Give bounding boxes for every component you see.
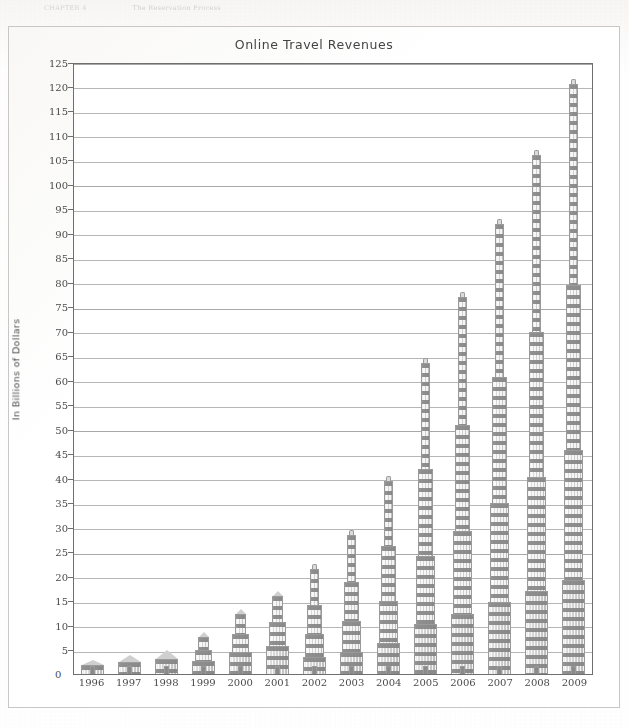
- building-segment: [451, 614, 474, 674]
- building-windows: [493, 378, 505, 503]
- building-windows: [496, 225, 504, 377]
- bar-slot[interactable]: [407, 64, 444, 674]
- building-segment: [564, 450, 583, 580]
- building-windows: [306, 635, 323, 657]
- x-tick-label: 2008: [519, 677, 556, 688]
- building-segment: [305, 634, 324, 657]
- running-header-left: CHAPTER 4: [44, 4, 87, 12]
- building-windows: [382, 547, 394, 600]
- building-door: [312, 666, 317, 674]
- x-tick-label: 2007: [482, 677, 519, 688]
- building-segment: [272, 596, 284, 623]
- bar-slot[interactable]: [222, 64, 259, 674]
- chart-title: Online Travel Revenues: [9, 37, 619, 52]
- building-windows: [567, 286, 579, 450]
- building-segment: [344, 582, 358, 621]
- building-segment: [527, 477, 546, 591]
- building-windows: [526, 592, 547, 674]
- building-segment: [418, 469, 432, 556]
- x-tick-label: 2003: [333, 677, 370, 688]
- building-segment: [307, 605, 321, 634]
- building-segment: [416, 556, 435, 624]
- building-door: [571, 666, 576, 674]
- scanned-page: CHAPTER 4 The Reservation Process Online…: [0, 0, 629, 728]
- bar-slot[interactable]: [481, 64, 518, 674]
- building-roof: [156, 650, 178, 659]
- building-windows: [570, 85, 578, 285]
- bar-slot[interactable]: [296, 64, 333, 674]
- bar-building[interactable]: [185, 632, 222, 674]
- building-windows: [419, 470, 431, 556]
- building-windows: [380, 602, 397, 644]
- bar-building[interactable]: [555, 79, 592, 674]
- building-segment: [381, 546, 395, 600]
- building-windows: [236, 615, 246, 634]
- building-segment: [490, 503, 509, 602]
- bar-building[interactable]: [333, 530, 370, 674]
- bar-building[interactable]: [111, 655, 148, 674]
- bar-building[interactable]: [222, 609, 259, 674]
- building-windows: [308, 606, 320, 634]
- building-segment: [269, 622, 286, 645]
- bar-building[interactable]: [407, 358, 444, 674]
- building-segment: [458, 297, 468, 425]
- bar-slot[interactable]: [74, 64, 111, 674]
- building-segment: [569, 84, 579, 285]
- x-tick-label: 2005: [407, 677, 444, 688]
- x-tick-label: 2004: [370, 677, 407, 688]
- building-door: [423, 666, 428, 674]
- bar-slot[interactable]: [370, 64, 407, 674]
- building-door: [349, 666, 354, 674]
- chart-figure: Online Travel Revenues In Billions of Do…: [8, 26, 620, 708]
- building-windows: [565, 451, 582, 580]
- building-windows: [491, 504, 508, 602]
- bar-slot[interactable]: [518, 64, 555, 674]
- bar-slot[interactable]: [444, 64, 481, 674]
- bar-slot[interactable]: [148, 64, 185, 674]
- building-segment: [525, 591, 548, 674]
- building-segment: [492, 377, 506, 503]
- building-windows: [343, 622, 360, 652]
- bar-slot[interactable]: [259, 64, 296, 674]
- bar-series: [74, 64, 592, 674]
- building-segment: [455, 425, 469, 531]
- bar-building[interactable]: [518, 150, 555, 674]
- x-tick-label: 1998: [147, 677, 184, 688]
- building-segment: [342, 621, 361, 652]
- x-tick-label: 1996: [73, 677, 110, 688]
- bar-building[interactable]: [370, 476, 407, 674]
- building-segment: [495, 224, 505, 377]
- building-segment: [232, 634, 249, 652]
- building-windows: [199, 638, 209, 649]
- building-windows: [345, 583, 357, 621]
- bar-building[interactable]: [148, 650, 185, 674]
- building-segment: [529, 332, 543, 477]
- building-door: [164, 666, 169, 674]
- bar-building[interactable]: [296, 564, 333, 674]
- building-windows: [459, 298, 467, 425]
- building-windows: [273, 597, 283, 623]
- bar-slot[interactable]: [111, 64, 148, 674]
- building-segment: [453, 531, 472, 614]
- building-windows: [454, 532, 471, 614]
- building-windows: [530, 333, 542, 477]
- bar-building[interactable]: [444, 292, 481, 674]
- bar-slot[interactable]: [555, 64, 592, 674]
- building-segment: [379, 601, 398, 644]
- x-tick-label: 2002: [296, 677, 333, 688]
- x-tick-label: 1997: [110, 677, 147, 688]
- building-windows: [563, 581, 584, 674]
- bar-building[interactable]: [74, 660, 111, 674]
- building-door: [90, 666, 95, 674]
- building-segment: [566, 285, 580, 450]
- bar-slot[interactable]: [333, 64, 370, 674]
- building-segment: [198, 637, 210, 649]
- y-tick-label-zero: 0: [55, 669, 61, 680]
- bar-building[interactable]: [481, 219, 518, 674]
- bar-slot[interactable]: [185, 64, 222, 674]
- building-door: [238, 666, 243, 674]
- building-windows: [456, 426, 468, 531]
- running-header: CHAPTER 4 The Reservation Process: [44, 2, 589, 14]
- building-door: [386, 666, 391, 674]
- bar-building[interactable]: [259, 591, 296, 674]
